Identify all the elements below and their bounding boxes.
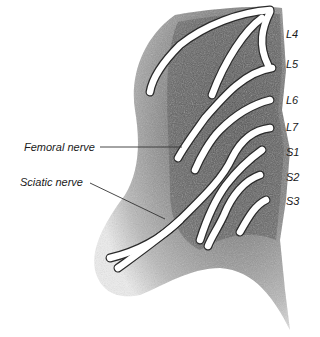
root-label-s3: S3 [286, 195, 299, 207]
nerve-illustration [0, 0, 320, 337]
root-label-l5: L5 [286, 58, 298, 70]
root-label-l7: L7 [286, 121, 298, 133]
root-label-l4: L4 [286, 28, 298, 40]
femoral-nerve-label: Femoral nerve [24, 141, 95, 153]
root-label-s2: S2 [286, 171, 299, 183]
root-label-l6: L6 [286, 94, 298, 106]
sciatic-nerve-label: Sciatic nerve [20, 176, 83, 188]
nerve-diagram: L4 L5 L6 L7 S1 S2 S3 Femoral nerve Sciat… [0, 0, 320, 337]
root-label-s1: S1 [286, 146, 299, 158]
